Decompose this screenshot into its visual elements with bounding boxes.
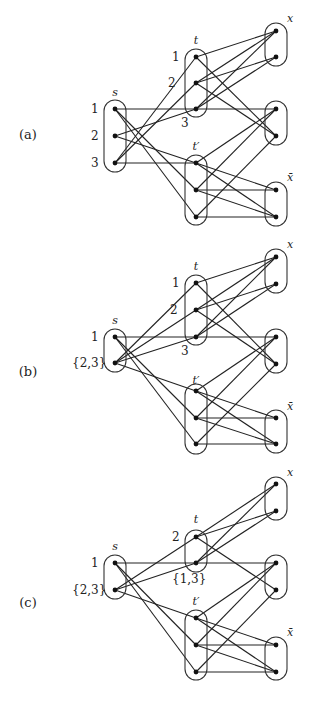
edge: [115, 363, 196, 391]
vertex-label: 1: [172, 276, 180, 290]
edge: [196, 284, 276, 337]
vertex-label: 3: [181, 344, 189, 358]
vertex-dot: [113, 134, 118, 139]
vertex-label: 2: [172, 530, 180, 544]
vertex-label: 3: [91, 156, 99, 170]
graph-figure: (a)s123t123xt′x̄ (b)s1{2,3}t123xt′x̄ (c)…: [0, 0, 310, 702]
vertex-dot: [274, 482, 279, 487]
edge: [196, 590, 276, 672]
edge: [115, 136, 196, 163]
vertex-label: 1: [91, 556, 99, 570]
vertex-dot: [274, 134, 279, 139]
vertex-dot: [194, 81, 199, 86]
edge: [196, 563, 276, 645]
vertex-dot: [274, 561, 279, 566]
vertex-dot: [194, 281, 199, 286]
group-label-t: t: [194, 513, 199, 526]
panel-c: (c)s1{2,3}t2{1,3}xt′x̄: [19, 466, 294, 680]
vertex-dot: [274, 509, 279, 514]
vertex-dot: [113, 588, 118, 593]
vertex-dot: [274, 55, 279, 60]
group-label-x: x: [287, 238, 294, 251]
edge: [196, 364, 276, 444]
group-label-t-prime: t′: [193, 374, 200, 387]
vertex-label: 2: [168, 76, 176, 90]
edge: [196, 257, 276, 337]
vertex-label: {1,3}: [172, 572, 206, 586]
vertex-dot: [194, 670, 199, 675]
edge: [196, 484, 276, 563]
vertex-label: 1: [172, 50, 180, 64]
edge: [196, 484, 276, 537]
vertex-dot: [113, 335, 118, 340]
edge: [196, 337, 276, 418]
edge: [196, 257, 276, 310]
edge: [115, 590, 196, 618]
vertex-dot: [113, 161, 118, 166]
vertex-dot: [194, 188, 199, 193]
vertex-dot: [194, 55, 199, 60]
vertex-dot: [274, 362, 279, 367]
vertex-dot: [274, 416, 279, 421]
group-label-x-bar: x̄: [287, 626, 294, 639]
edge: [196, 109, 276, 190]
edge: [196, 190, 276, 217]
group-label-t-prime: t′: [193, 595, 200, 608]
group-label-x-bar: x̄: [287, 400, 294, 413]
edge: [196, 31, 276, 109]
vertex-dot: [194, 161, 199, 166]
group-label-t-prime: t′: [193, 140, 200, 153]
edge: [196, 563, 276, 618]
vertex-dot: [274, 588, 279, 593]
panel-label: (b): [19, 364, 37, 379]
edge: [196, 418, 276, 444]
vertex-dot: [274, 215, 279, 220]
panel-label: (c): [19, 595, 36, 610]
vertex-dot: [194, 335, 199, 340]
vertex-label: 3: [181, 116, 189, 130]
vertex-dot: [194, 308, 199, 313]
edge: [196, 31, 276, 83]
edge: [196, 257, 276, 283]
vertex-dot: [274, 670, 279, 675]
vertex-label: 1: [91, 102, 99, 116]
panel-a: (a)s123t123xt′x̄: [19, 12, 294, 226]
vertex-dot: [274, 29, 279, 34]
group-label-s: s: [112, 540, 118, 553]
edge: [196, 57, 276, 109]
group-label-s: s: [112, 86, 118, 99]
vertex-dot: [274, 255, 279, 260]
vertex-dot: [274, 335, 279, 340]
vertex-label: 1: [91, 330, 99, 344]
edge: [196, 136, 276, 217]
vertex-dot: [274, 643, 279, 648]
vertex-dot: [194, 535, 199, 540]
vertex-dot: [194, 561, 199, 566]
vertex-label: {2,3}: [72, 583, 106, 597]
vertex-dot: [274, 188, 279, 193]
vertex-dot: [194, 389, 199, 394]
panel-label: (a): [19, 127, 37, 142]
vertex-dot: [113, 107, 118, 112]
group-label-x: x: [287, 12, 294, 25]
vertex-dot: [194, 643, 199, 648]
vertex-dot: [274, 282, 279, 287]
group-label-x-bar: x̄: [287, 171, 294, 184]
edge: [196, 645, 276, 672]
group-label-t: t: [194, 34, 199, 47]
group-label-t: t: [194, 260, 199, 273]
edge: [196, 511, 276, 563]
vertex-dot: [194, 442, 199, 447]
vertex-dot: [194, 215, 199, 220]
edge: [196, 109, 276, 163]
group-label-s: s: [112, 314, 118, 327]
vertex-label: {2,3}: [72, 356, 106, 370]
edge: [196, 57, 276, 136]
vertex-dot: [194, 107, 199, 112]
vertex-dot: [274, 442, 279, 447]
vertex-label: 2: [91, 129, 99, 143]
group-label-x: x: [287, 466, 294, 479]
vertex-dot: [194, 616, 199, 621]
vertex-dot: [274, 107, 279, 112]
vertex-dot: [194, 416, 199, 421]
